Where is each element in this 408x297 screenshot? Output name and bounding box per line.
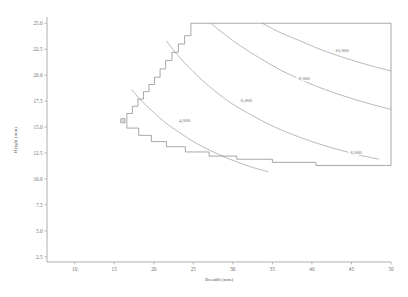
y-tick-label: 10.0 [33,176,42,182]
contour-line-10000 [262,23,391,71]
y-tick-label: 5.0 [36,228,43,234]
y-tick-label: 17.5 [33,98,42,104]
x-tick-label: 20 [151,266,157,272]
contour-plot-figure: 2.55.07.510.012.515.017.520.022.525.0 10… [0,0,408,297]
y-tick-label: 22.5 [33,46,42,52]
x-tick-label: 50 [388,266,394,272]
x-axis-ticks: 101520253035404550 [72,262,394,272]
y-axis-ticks: 2.55.07.510.012.515.017.520.022.525.0 [33,20,47,260]
plot-canvas: 2.55.07.510.012.515.017.520.022.525.0 10… [0,0,408,297]
y-tick-label: 12.5 [33,150,42,156]
x-tick-label: 10 [72,266,78,272]
x-tick-label: 45 [349,266,355,272]
y-axis-title: Height (mm) [13,127,18,153]
region-upper-staircase [127,23,391,121]
region-marker-square [121,119,125,123]
x-axis-title: Breadth (mm) [205,277,234,282]
contour-line-8000 [211,23,391,109]
x-tick-label: 15 [112,266,118,272]
axes-group [47,17,391,262]
feasible-region-boundary [127,23,391,165]
x-tick-label: 25 [191,266,197,272]
y-tick-label: 7.5 [36,202,43,208]
region-lower-staircase [127,121,391,166]
y-tick-label: 20.0 [33,72,42,78]
region-origin-marker [121,119,125,123]
contour-labels: 4,0006,0006,0008,00010,000 [177,47,364,156]
y-tick-label: 25.0 [33,20,42,26]
x-tick-label: 40 [309,266,315,272]
x-tick-label: 30 [230,266,236,272]
y-tick-label: 2.5 [36,254,43,260]
x-tick-label: 35 [270,266,276,272]
y-tick-label: 15.0 [33,124,42,130]
